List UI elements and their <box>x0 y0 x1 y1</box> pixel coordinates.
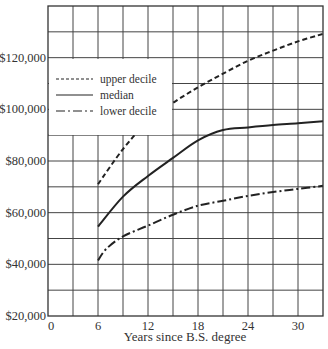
legend-label: upper decile <box>100 73 157 86</box>
x-tick-label: 30 <box>292 319 305 333</box>
series-line-lower-decile <box>98 186 323 261</box>
legend-label: lower decile <box>100 105 157 117</box>
legend-label: median <box>100 89 134 101</box>
x-axis-label: Years since B.S. degree <box>124 329 247 344</box>
x-tick-label: 6 <box>95 319 101 333</box>
x-tick-label: 0 <box>48 319 54 333</box>
y-tick-label: $100,000 <box>0 102 46 116</box>
y-tick-label: $80,000 <box>5 154 46 168</box>
y-tick-label: $40,000 <box>5 257 46 271</box>
y-tick-label: $120,000 <box>0 51 46 65</box>
grid-lines <box>48 6 323 316</box>
y-tick-label: $20,000 <box>5 309 46 323</box>
line-chart: $20,000$40,000$60,000$80,000$100,000$120… <box>0 0 328 349</box>
y-tick-label: $60,000 <box>5 206 46 220</box>
y-axis-tick-labels: $20,000$40,000$60,000$80,000$100,000$120… <box>0 51 46 323</box>
